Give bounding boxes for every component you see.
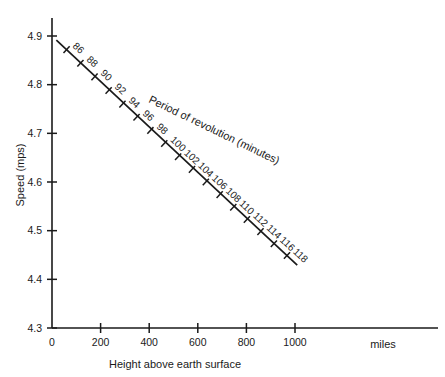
y-tick-label: 4.8	[27, 78, 42, 90]
y-tick-label: 4.6	[27, 176, 42, 188]
data-point-label: 88	[85, 54, 101, 70]
y-tick-label: 4.7	[27, 127, 42, 139]
x-tick-label: 400	[140, 336, 158, 348]
y-tick-label: 4.4	[27, 273, 42, 285]
chart-container: 4.94.84.74.64.54.44.3 02004006008001000 …	[0, 0, 445, 377]
x-tick-label: 200	[92, 336, 110, 348]
x-tick-label: 800	[238, 336, 256, 348]
x-tick-label: 1000	[283, 336, 307, 348]
x-axis-ticks: 02004006008001000	[49, 323, 307, 348]
y-tick-label: 4.3	[27, 322, 42, 334]
orbital-speed-chart: 4.94.84.74.64.54.44.3 02004006008001000 …	[0, 0, 445, 377]
y-tick-label: 4.5	[27, 224, 42, 236]
data-point-label: 86	[71, 40, 87, 56]
x-axis-title: Height above earth surface	[109, 358, 241, 370]
x-tick-label: 600	[189, 336, 207, 348]
y-tick-label: 4.9	[27, 30, 42, 42]
y-axis-title: Speed (mps)	[14, 144, 26, 207]
x-axis-unit-label: miles	[370, 338, 396, 350]
x-tick-label: 0	[49, 336, 55, 348]
